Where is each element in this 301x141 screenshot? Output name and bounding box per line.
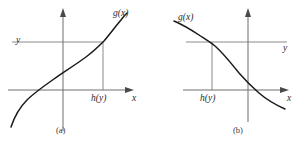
panel-a-hy-label: h(y) xyxy=(91,94,106,104)
panel-b-graphics xyxy=(174,8,289,122)
panel-a-y-axis-arrow-icon xyxy=(60,8,66,17)
figure-canvas xyxy=(0,0,301,141)
panel-b-hy-label: h(y) xyxy=(200,94,215,104)
panel-b-x-axis-label: x xyxy=(287,94,291,104)
panel-b-y-axis-arrow-icon xyxy=(245,8,251,17)
panel-b-caption: (b) xyxy=(233,126,243,135)
panel-a-y-axis-label: y xyxy=(16,36,20,46)
panel-a-curve-gx xyxy=(11,13,127,127)
panel-b-curve-label: g(x) xyxy=(178,13,193,23)
panel-a-caption: (a) xyxy=(56,126,65,135)
math-figure: y g(x) h(y) x (a) g(x) y h(y) x (b) xyxy=(0,0,301,141)
panel-a-graphics xyxy=(8,8,134,131)
panel-b-y-axis-label: y xyxy=(283,44,287,54)
panel-a-curve-label: g(x) xyxy=(113,9,128,19)
panel-a-x-axis-label: x xyxy=(132,94,136,104)
panel-b-curve-gx xyxy=(174,21,285,109)
